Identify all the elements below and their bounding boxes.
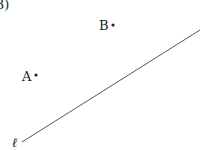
problem-number: 3) (0, 0, 9, 12)
line-label: ℓ (12, 135, 18, 150)
point-a-label: A (21, 69, 32, 84)
point-b-dot (111, 23, 114, 26)
geometry-diagram: 3) ℓ B A (0, 0, 207, 150)
point-a-dot (34, 73, 37, 76)
line-l (22, 30, 200, 142)
point-b-label: B (99, 18, 109, 33)
